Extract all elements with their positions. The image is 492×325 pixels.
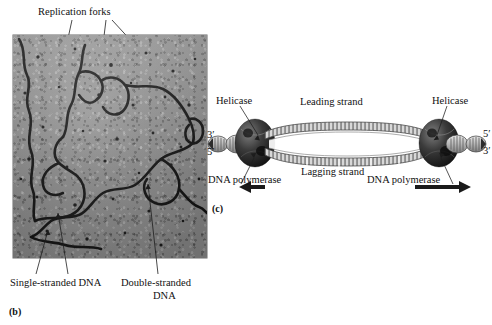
micrograph-specks — [13, 35, 207, 258]
label-left-3-prime: 3′ — [207, 129, 215, 141]
label-left-5-prime: 5′ — [207, 146, 215, 158]
label-right-3-prime: 3′ — [483, 145, 491, 157]
label-helicase-right: Helicase — [432, 95, 468, 107]
right-duplex-helix — [446, 135, 486, 153]
label-double-stranded-dna-line2: DNA — [153, 290, 176, 302]
replication-bubble-schematic: Helicase Leading strand Helicase 3′ 5′ 5… — [207, 88, 492, 218]
label-right-5-prime: 5′ — [483, 128, 491, 140]
panel-tag-b: (b) — [9, 306, 21, 317]
label-helicase-left: Helicase — [216, 95, 252, 107]
label-single-stranded-dna: Single-stranded DNA — [10, 277, 101, 289]
label-double-stranded-dna-line1: Double-stranded — [121, 277, 191, 289]
figure-container: Replication forks — [0, 0, 492, 325]
label-lagging-strand: Lagging strand — [301, 166, 364, 178]
label-dna-polymerase-right: DNA polymerase — [367, 174, 440, 186]
electron-micrograph-image — [13, 35, 207, 258]
panel-tag-c: (c) — [212, 203, 223, 214]
label-dna-polymerase-left: DNA polymerase — [208, 174, 281, 186]
label-replication-forks: Replication forks — [38, 6, 111, 18]
label-leading-strand: Leading strand — [300, 96, 363, 108]
